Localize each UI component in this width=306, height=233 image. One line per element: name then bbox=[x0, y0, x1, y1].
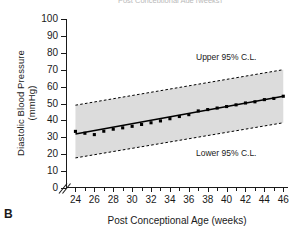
x-tick-40 bbox=[227, 188, 228, 192]
figure-panel-b: Post Conceptional Age (weeks) Diastolic … bbox=[0, 0, 306, 233]
axis-break-icon bbox=[58, 182, 74, 195]
x-tick-30 bbox=[132, 188, 133, 192]
x-tick-38 bbox=[208, 188, 209, 192]
y-tick-label-40: 40 bbox=[30, 114, 58, 125]
y-tick-label-80: 80 bbox=[30, 47, 58, 58]
x-tick-label-40: 40 bbox=[221, 194, 232, 205]
y-tick-40 bbox=[61, 120, 66, 121]
x-tick-35 bbox=[179, 188, 180, 191]
x-tick-44 bbox=[264, 188, 265, 192]
x-tick-28 bbox=[113, 188, 114, 192]
x-tick-27 bbox=[104, 188, 105, 191]
data-point bbox=[149, 121, 152, 124]
data-point bbox=[168, 117, 171, 120]
data-point bbox=[112, 128, 115, 131]
x-tick-label-32: 32 bbox=[145, 194, 156, 205]
y-tick-70 bbox=[61, 70, 66, 71]
y-tick-60 bbox=[61, 87, 66, 88]
y-tick-label-30: 30 bbox=[30, 131, 58, 142]
y-tick-label-50: 50 bbox=[30, 98, 58, 109]
x-tick-37 bbox=[198, 188, 199, 191]
y-tick-label-100: 100 bbox=[30, 13, 58, 24]
x-tick-24 bbox=[75, 188, 76, 192]
x-axis-title: Post Conceptional Age (weeks) bbox=[66, 215, 288, 226]
y-tick-50 bbox=[61, 104, 66, 105]
data-point bbox=[74, 130, 77, 133]
panel-label: B bbox=[4, 207, 13, 221]
y-tick-label-60: 60 bbox=[30, 81, 58, 92]
y-axis-line bbox=[66, 19, 67, 188]
y-tick-90 bbox=[61, 36, 66, 37]
data-point bbox=[282, 95, 285, 98]
x-tick-31 bbox=[142, 188, 143, 191]
data-point bbox=[216, 107, 219, 110]
data-point bbox=[263, 98, 266, 101]
x-tick-29 bbox=[123, 188, 124, 191]
data-point bbox=[197, 109, 200, 112]
y-tick-label-90: 90 bbox=[30, 30, 58, 41]
x-tick-label-44: 44 bbox=[259, 194, 270, 205]
data-point bbox=[102, 130, 105, 133]
x-tick-label-42: 42 bbox=[240, 194, 251, 205]
annotation-upper-cl: Upper 95% C.L. bbox=[196, 52, 256, 62]
x-tick-32 bbox=[151, 188, 152, 192]
confidence-band bbox=[75, 70, 283, 158]
x-tick-34 bbox=[170, 188, 171, 192]
x-tick-label-34: 34 bbox=[164, 194, 175, 205]
data-point bbox=[83, 132, 86, 135]
x-tick-45 bbox=[274, 188, 275, 191]
plot-area: 0102030405060708090100 24262830323436384… bbox=[66, 19, 288, 188]
x-tick-label-30: 30 bbox=[127, 194, 138, 205]
x-tick-label-24: 24 bbox=[70, 194, 81, 205]
data-point bbox=[178, 115, 181, 118]
y-tick-label-20: 20 bbox=[30, 148, 58, 159]
data-point bbox=[159, 119, 162, 122]
x-tick-41 bbox=[236, 188, 237, 191]
y-tick-label-70: 70 bbox=[30, 64, 58, 75]
y-tick-10 bbox=[61, 171, 66, 172]
data-point bbox=[234, 103, 237, 106]
x-tick-43 bbox=[255, 188, 256, 191]
x-tick-25 bbox=[85, 188, 86, 191]
data-point bbox=[253, 100, 256, 103]
x-tick-46 bbox=[283, 188, 284, 192]
annotation-lower-cl: Lower 95% C.L. bbox=[196, 148, 256, 158]
x-tick-label-46: 46 bbox=[278, 194, 289, 205]
y-tick-label-0: 0 bbox=[30, 182, 58, 193]
y-tick-30 bbox=[61, 137, 66, 138]
x-tick-33 bbox=[160, 188, 161, 191]
y-tick-20 bbox=[61, 154, 66, 155]
x-tick-42 bbox=[245, 188, 246, 192]
clipped-title-above: Post Conceptional Age (weeks) bbox=[95, 0, 245, 3]
data-point bbox=[131, 125, 134, 128]
x-tick-label-28: 28 bbox=[108, 194, 119, 205]
data-series-layer bbox=[66, 19, 288, 188]
data-point bbox=[187, 113, 190, 116]
x-tick-label-36: 36 bbox=[183, 194, 194, 205]
x-tick-label-26: 26 bbox=[89, 194, 100, 205]
x-tick-39 bbox=[217, 188, 218, 191]
data-point bbox=[206, 108, 209, 111]
y-tick-label-10: 10 bbox=[30, 165, 58, 176]
y-tick-80 bbox=[61, 53, 66, 54]
data-point bbox=[272, 97, 275, 100]
x-tick-label-38: 38 bbox=[202, 194, 213, 205]
data-point bbox=[244, 101, 247, 104]
x-tick-26 bbox=[94, 188, 95, 192]
data-point bbox=[121, 126, 124, 129]
y-tick-100 bbox=[61, 19, 66, 20]
x-tick-36 bbox=[189, 188, 190, 192]
data-point bbox=[140, 123, 143, 126]
y-axis-title-line1: Diastolic Blood Pressure bbox=[15, 13, 26, 193]
data-point bbox=[93, 133, 96, 136]
data-point bbox=[225, 105, 228, 108]
